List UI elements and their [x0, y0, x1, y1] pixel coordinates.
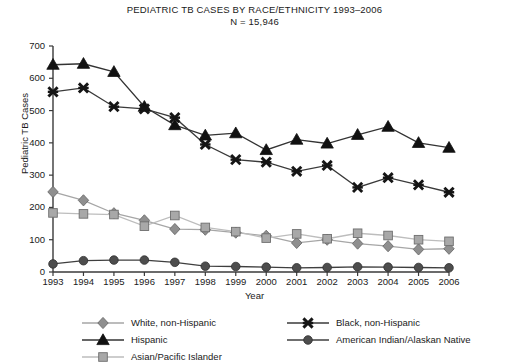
- data-point-circle: [262, 263, 271, 272]
- legend-marker-diamond-icon: [80, 315, 126, 331]
- y-tick-label: 100: [15, 234, 45, 245]
- legend-item[interactable]: Asian/Pacific Islander: [80, 348, 222, 364]
- data-point-circle: [110, 256, 119, 265]
- data-point-diamond: [413, 244, 423, 255]
- legend-label: American Indian/Alaskan Native: [331, 334, 471, 345]
- data-point-triangle: [290, 133, 302, 144]
- data-point-triangle: [412, 137, 424, 148]
- legend-label: Asian/Pacific Islander: [126, 351, 222, 362]
- data-point-circle: [231, 262, 240, 271]
- data-point-square: [384, 231, 393, 240]
- data-point-triangle: [77, 58, 89, 69]
- data-point-cross: [303, 318, 313, 327]
- data-point-cross: [109, 102, 119, 111]
- chart-title-block: PEDIATRIC TB CASES BY RACE/ETHNICITY 199…: [0, 4, 509, 28]
- data-point-circle: [384, 263, 393, 272]
- y-tick-label: 500: [15, 105, 45, 116]
- data-point-triangle: [230, 127, 242, 138]
- y-tick-label: 400: [15, 137, 45, 148]
- data-point-circle: [414, 263, 423, 272]
- plot-area: [53, 46, 449, 272]
- data-point-circle: [140, 256, 149, 265]
- data-point-circle: [292, 264, 301, 273]
- series-markers-3: [48, 83, 454, 196]
- data-point-square: [353, 229, 362, 238]
- data-point-diamond: [48, 186, 58, 197]
- data-point-square: [262, 234, 271, 243]
- page-title: PEDIATRIC TB CASES BY RACE/ETHNICITY 199…: [0, 4, 509, 16]
- data-point-cross: [383, 173, 393, 182]
- legend-item[interactable]: Hispanic: [80, 331, 222, 348]
- legend-item[interactable]: American Indian/Alaskan Native: [285, 331, 471, 348]
- data-point-cross: [78, 83, 88, 92]
- data-point-square: [445, 237, 454, 246]
- y-axis-label: Pediatric TB Cases: [19, 64, 30, 204]
- data-point-cross: [352, 183, 362, 192]
- data-point-circle: [79, 256, 88, 265]
- data-point-diamond: [383, 241, 393, 252]
- data-point-cross: [444, 188, 454, 197]
- legend-column-1: White, non-HispanicHispanicAsian/Pacific…: [80, 314, 222, 364]
- data-point-circle: [353, 263, 362, 272]
- data-point-circle: [49, 260, 58, 269]
- y-tick-label: 300: [15, 169, 45, 180]
- y-tick-label: 700: [15, 40, 45, 51]
- series-line-0: [53, 192, 449, 249]
- legend-column-2: Black, non-HispanicAmerican Indian/Alask…: [285, 314, 471, 348]
- data-point-square: [99, 352, 108, 361]
- legend-item[interactable]: White, non-Hispanic: [80, 314, 222, 331]
- data-point-diamond: [291, 237, 301, 248]
- series-markers-4: [49, 256, 454, 272]
- data-point-cross: [322, 161, 332, 170]
- data-point-triangle: [47, 59, 59, 70]
- data-point-triangle: [382, 121, 394, 132]
- data-point-circle: [304, 335, 313, 344]
- x-tick-label: 2006: [429, 276, 469, 287]
- y-tick-label: 200: [15, 201, 45, 212]
- data-point-diamond: [170, 223, 180, 234]
- series-markers-2: [49, 209, 454, 246]
- data-point-circle: [171, 258, 180, 267]
- legend-marker-triangle-icon: [80, 332, 126, 348]
- data-point-square: [414, 235, 423, 244]
- data-point-circle: [323, 263, 332, 272]
- chart-subtitle: N = 15,946: [0, 16, 509, 28]
- data-point-diamond: [98, 317, 108, 328]
- data-point-cross: [231, 155, 241, 164]
- legend-label: Hispanic: [126, 334, 167, 345]
- data-point-cross: [261, 158, 271, 167]
- data-point-diamond: [352, 238, 362, 249]
- data-point-square: [49, 209, 58, 218]
- y-tick-label: 600: [15, 72, 45, 83]
- chart-canvas: [53, 46, 449, 272]
- x-axis-label: Year: [0, 290, 509, 301]
- data-point-cross: [291, 167, 301, 176]
- legend-label: Black, non-Hispanic: [331, 317, 420, 328]
- data-point-square: [171, 211, 180, 220]
- legend-marker-cross-icon: [285, 315, 331, 331]
- data-point-square: [231, 227, 240, 236]
- data-point-square: [201, 223, 210, 232]
- data-point-cross: [413, 180, 423, 189]
- legend-marker-circle-icon: [285, 332, 331, 348]
- data-point-circle: [201, 262, 210, 271]
- data-point-cross: [200, 140, 210, 149]
- data-point-diamond: [78, 195, 88, 206]
- data-point-square: [79, 210, 88, 219]
- data-point-square: [140, 222, 149, 231]
- legend-marker-square-icon: [80, 349, 126, 364]
- legend-label: White, non-Hispanic: [126, 317, 216, 328]
- legend-item[interactable]: Black, non-Hispanic: [285, 314, 471, 331]
- series-markers-0: [48, 186, 454, 255]
- data-point-circle: [445, 264, 454, 273]
- data-point-square: [292, 230, 301, 239]
- data-point-square: [110, 210, 119, 219]
- series-markers-1: [47, 58, 455, 155]
- data-point-square: [323, 234, 332, 243]
